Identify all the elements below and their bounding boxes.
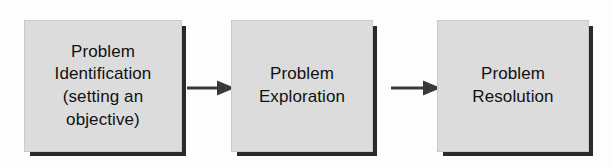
process-box-problem-resolution[interactable]: Problem Resolution xyxy=(437,20,589,152)
flowchart-diagram: Problem Identification (setting an objec… xyxy=(0,0,612,168)
process-box-label: Problem Exploration xyxy=(255,63,349,108)
process-box-problem-exploration[interactable]: Problem Exploration xyxy=(231,20,373,152)
process-box-problem-identification[interactable]: Problem Identification (setting an objec… xyxy=(24,20,182,152)
arrow-right-icon xyxy=(187,76,235,100)
process-box-label: Problem Identification (setting an objec… xyxy=(51,41,156,131)
arrow-right-icon xyxy=(391,76,441,100)
flow-arrow-identification-to-exploration xyxy=(187,76,235,100)
flow-arrow-exploration-to-resolution xyxy=(391,76,441,100)
process-box-label: Problem Resolution xyxy=(468,63,557,108)
